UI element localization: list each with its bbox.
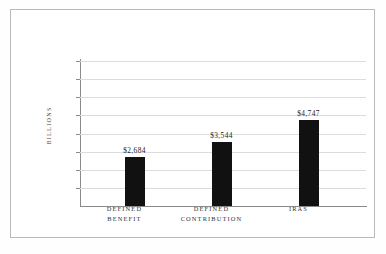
gridline	[80, 61, 366, 62]
bar-value-label: $4,747	[297, 109, 320, 118]
x-axis-category-line: IRAS	[289, 204, 308, 214]
bar[interactable]	[212, 142, 232, 206]
x-axis-category-label: DEFINEDBENEFIT	[107, 204, 142, 223]
chart-page: 1,0002,0003,0004,0005,0006,0007,000$8,00…	[0, 0, 386, 254]
bar-value-label: $2,684	[123, 146, 146, 155]
bar-value-label: $3,544	[210, 131, 233, 140]
x-axis-category-label: DEFINEDCONTRIBUTION	[181, 204, 243, 223]
bar[interactable]	[125, 157, 145, 206]
gridline	[80, 97, 366, 98]
chart-frame: 1,0002,0003,0004,0005,0006,0007,000$8,00…	[10, 9, 375, 238]
x-axis-category-line: BENEFIT	[107, 214, 142, 224]
x-axis-category-label: IRAS	[289, 204, 308, 214]
x-axis-category-line: DEFINED	[181, 204, 243, 214]
y-axis-tick	[76, 61, 80, 62]
y-axis-tick	[76, 152, 80, 153]
plot-area: $2,684$3,544$4,747	[80, 61, 366, 206]
y-axis-tick	[76, 79, 80, 80]
bar[interactable]	[299, 120, 319, 206]
y-axis-title: BILLIONS	[45, 106, 52, 144]
x-axis-category-line: CONTRIBUTION	[181, 214, 243, 224]
gridline	[80, 79, 366, 80]
y-axis-tick	[76, 170, 80, 171]
y-axis-tick	[76, 134, 80, 135]
gridline	[80, 115, 366, 116]
y-axis-tick	[76, 115, 80, 116]
y-axis-tick	[76, 97, 80, 98]
y-axis-tick	[76, 188, 80, 189]
x-axis-category-line: DEFINED	[107, 204, 142, 214]
